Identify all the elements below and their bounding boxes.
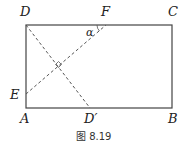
label-alpha: α <box>86 26 94 39</box>
figure-caption: 图 8.19 <box>76 131 111 142</box>
figure-canvas: D F C E A D′ B α 图 8.19 <box>0 0 184 158</box>
label-C: C <box>168 4 178 19</box>
rectangle-ABCD <box>26 25 172 108</box>
label-E: E <box>9 87 20 102</box>
label-A: A <box>19 111 29 126</box>
label-B: B <box>167 111 178 126</box>
label-D-prime: D′ <box>83 111 97 126</box>
crease-line-EF <box>26 25 106 94</box>
angle-arc-alpha <box>97 25 100 31</box>
geometry-figure: D F C E A D′ B α 图 8.19 <box>0 0 184 158</box>
label-F: F <box>100 4 111 19</box>
label-D: D <box>19 4 31 19</box>
